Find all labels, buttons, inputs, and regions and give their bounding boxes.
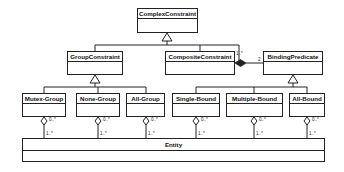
- class-group-constraint[interactable]: GroupConstraint: [67, 51, 123, 75]
- class-name: All-Group: [127, 94, 164, 104]
- class-binding-predicate[interactable]: BindingPredicate: [263, 51, 323, 75]
- generalization-arrow-icon: [288, 75, 298, 83]
- class-name: None-Group: [77, 94, 119, 104]
- class-name: CompositeConstraint: [166, 52, 234, 62]
- class-all-bound[interactable]: All-Bound: [289, 93, 325, 117]
- multiplicity-label: 1..*: [309, 131, 316, 136]
- aggregation-diamond-icon: [193, 117, 199, 125]
- aggregation-diamond-icon: [41, 117, 47, 125]
- class-none-group[interactable]: None-Group: [76, 93, 120, 117]
- aggregation-diamond-icon: [143, 117, 149, 125]
- composition-diamond-icon: [235, 60, 246, 67]
- class-name: Multiple-Bound: [227, 94, 282, 104]
- class-multiple-bound[interactable]: Multiple-Bound: [226, 93, 283, 117]
- class-name: Mutex-Group: [23, 94, 65, 104]
- class-single-bound[interactable]: Single-Bound: [172, 93, 220, 117]
- aggregation-diamond-icon: [95, 117, 101, 125]
- multiplicity-label: 1..*: [256, 131, 263, 136]
- class-composite-constraint[interactable]: CompositeConstraint: [165, 51, 235, 75]
- multiplicity-label: 1..*: [46, 131, 53, 136]
- multiplicity-label: 0..*: [259, 117, 266, 122]
- multiplicity-label: 0..*: [312, 117, 319, 122]
- aggregation-diamond-icon: [304, 117, 310, 125]
- multiplicity-label: 1..*: [100, 131, 107, 136]
- multiplicity-label: 0..*: [103, 117, 110, 122]
- multiplicity-label: 2: [258, 57, 261, 62]
- class-mutex-group[interactable]: Mutex-Group: [22, 93, 66, 117]
- class-all-group[interactable]: All-Group: [126, 93, 165, 117]
- class-name: GroupConstraint: [68, 52, 122, 62]
- aggregation-diamond-icon: [251, 117, 257, 125]
- multiplicity-label: 1..*: [198, 131, 205, 136]
- class-name: BindingPredicate: [264, 52, 322, 62]
- class-name: All-Bound: [290, 94, 324, 104]
- generalization-arrow-icon: [90, 75, 100, 83]
- multiplicity-label: 0..*: [49, 117, 56, 122]
- multiplicity-label: 1..*: [236, 51, 243, 56]
- class-complex-constraint[interactable]: ComplexConstraint: [137, 8, 198, 33]
- multiplicity-label: 0..*: [201, 117, 208, 122]
- class-entity[interactable]: Entity: [22, 138, 325, 162]
- class-name: Single-Bound: [173, 94, 219, 104]
- multiplicity-label: 1..*: [148, 131, 155, 136]
- class-name: ComplexConstraint: [138, 9, 197, 19]
- generalization-arrow-icon: [162, 33, 172, 41]
- multiplicity-label: 0..*: [151, 117, 158, 122]
- class-name: Entity: [23, 139, 324, 151]
